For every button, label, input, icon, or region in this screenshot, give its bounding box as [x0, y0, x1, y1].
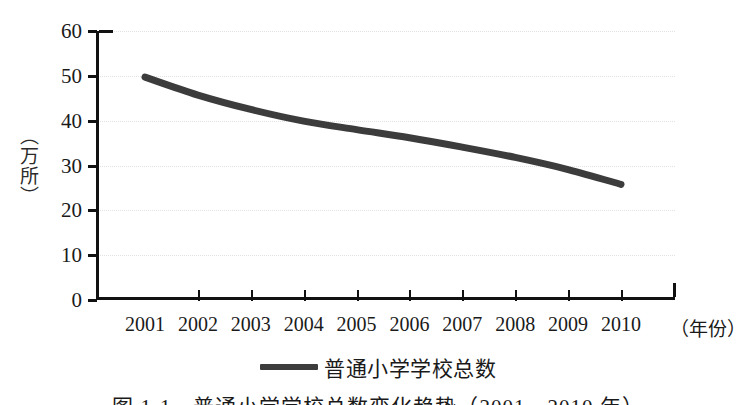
x-axis-tick-label: 2010 [601, 314, 641, 334]
x-axis-tick-label: 2001 [125, 314, 165, 334]
x-axis-tick-label: 2005 [337, 314, 377, 334]
y-axis-tick-label: 10 [61, 245, 82, 266]
figure-caption: 图 1-1 普通小学学校总数变化趋势（2001—2010 年） [0, 390, 756, 405]
chart-legend: 普通小学学校总数 [0, 352, 756, 382]
x-axis-tick-label: 2003 [231, 314, 271, 334]
y-axis-tick-label: 40 [61, 110, 82, 131]
plot-area: 0102030405060 20012002200320042005200620… [96, 31, 675, 300]
x-axis-tick-label: 2006 [389, 314, 429, 334]
x-axis-tick-label: 2002 [178, 314, 218, 334]
x-axis-right-cap [673, 283, 676, 297]
x-axis-unit-label: （年份） [670, 314, 746, 341]
y-axis-tick-label: 0 [72, 290, 83, 311]
y-axis-top-cap [99, 30, 113, 33]
x-axis-tick-label: 2008 [495, 314, 535, 334]
x-axis-tick-label: 2004 [284, 314, 324, 334]
y-axis-tick-label: 60 [61, 21, 82, 42]
x-axis-tick-label: 2009 [548, 314, 588, 334]
y-axis-tick-label: 30 [61, 155, 82, 176]
legend-item-label: 普通小学学校总数 [324, 352, 496, 382]
x-axis-tick-label: 2007 [442, 314, 482, 334]
y-axis-title: （万所） [6, 96, 50, 236]
y-axis-tick-label: 50 [61, 65, 82, 86]
line-swatch-icon [260, 364, 318, 370]
y-axis-tick-label: 20 [61, 200, 82, 221]
line-chart-figure: （万所） 0102030405060 200120022003200420052… [0, 0, 756, 405]
plot-frame [96, 31, 675, 300]
